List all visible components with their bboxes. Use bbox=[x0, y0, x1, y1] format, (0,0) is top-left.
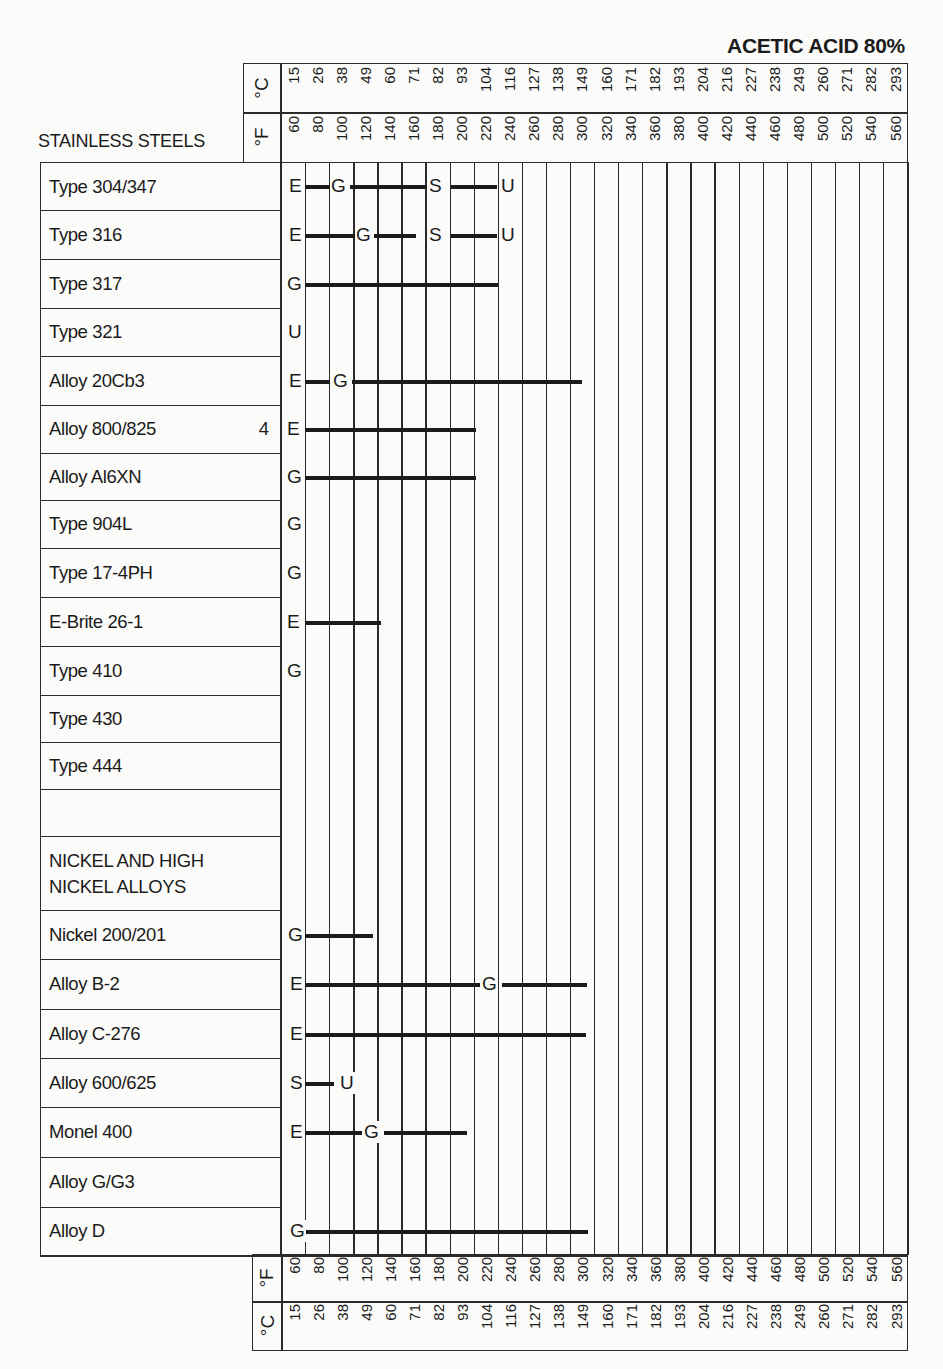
grid-line bbox=[498, 162, 499, 1255]
axis-tick-label: 93 bbox=[451, 1304, 475, 1321]
axis-tick: 238 bbox=[764, 1304, 788, 1329]
rating-letter: G bbox=[289, 1220, 306, 1242]
chart-grid: Type 304/347Type 316Type 317Type 321Allo… bbox=[0, 0, 943, 1369]
grid-line bbox=[618, 162, 619, 1255]
axis-tick: 200 bbox=[451, 1257, 475, 1282]
rating-bar bbox=[305, 1131, 362, 1135]
material-row: Alloy 800/8254 bbox=[40, 405, 281, 454]
material-row: Type 444 bbox=[40, 742, 281, 790]
axis-tick: 71 bbox=[403, 1304, 427, 1321]
axis-tick: 171 bbox=[620, 1304, 644, 1329]
rating-letter: E bbox=[289, 1023, 304, 1045]
axis-tick-label: 440 bbox=[740, 1257, 764, 1282]
rating-bar bbox=[305, 380, 330, 384]
axis-tick-label: 38 bbox=[331, 1304, 355, 1321]
rating-letter: E bbox=[289, 973, 304, 995]
axis-tick-label: 26 bbox=[307, 1304, 331, 1321]
grid-line bbox=[329, 162, 330, 1255]
material-row: Alloy Al6XN bbox=[40, 453, 281, 501]
axis-tick: 300 bbox=[571, 1257, 595, 1282]
material-row: Alloy C-276 bbox=[40, 1009, 281, 1059]
axis-tick: 271 bbox=[836, 1304, 860, 1329]
axis-tick: 120 bbox=[355, 1257, 379, 1282]
material-name: Nickel 200/201 bbox=[49, 924, 166, 946]
grid-line bbox=[859, 162, 860, 1255]
material-name: Type 304/347 bbox=[49, 176, 156, 198]
rating-bar bbox=[305, 283, 498, 287]
axis-tick: 280 bbox=[547, 1257, 571, 1282]
material-row: Nickel 200/201 bbox=[40, 910, 281, 960]
material-row: Alloy G/G3 bbox=[40, 1157, 281, 1208]
axis-tick: 204 bbox=[692, 1304, 716, 1329]
axis-tick-label: 104 bbox=[475, 1304, 499, 1329]
axis-tick: 138 bbox=[547, 1304, 571, 1329]
rating-letter: G bbox=[287, 924, 304, 946]
rating-bar bbox=[305, 983, 480, 987]
material-name: Alloy 800/825 bbox=[49, 418, 156, 440]
axis-tick: 60 bbox=[283, 1257, 307, 1274]
axis-tick-label: 120 bbox=[355, 1257, 379, 1282]
chart-left-border bbox=[280, 162, 282, 1255]
axis-tick: 540 bbox=[860, 1257, 884, 1282]
material-name: E-Brite 26-1 bbox=[49, 611, 143, 633]
grid-line bbox=[642, 162, 643, 1255]
axis-tick: 360 bbox=[644, 1257, 668, 1282]
material-name: Monel 400 bbox=[49, 1121, 132, 1143]
axis-tick-label: 380 bbox=[668, 1257, 692, 1282]
axis-tick-label: 300 bbox=[571, 1257, 595, 1282]
axis-tick-label: 238 bbox=[764, 1304, 788, 1329]
axis-tick-label: 271 bbox=[836, 1304, 860, 1329]
rating-bar bbox=[305, 234, 355, 238]
rating-bar bbox=[384, 1131, 467, 1135]
axis-tick: 80 bbox=[307, 1257, 331, 1274]
rating-letter: G bbox=[286, 562, 303, 584]
axis-tick: 180 bbox=[427, 1257, 451, 1282]
axis-tick-label: 520 bbox=[836, 1257, 860, 1282]
axis-tick: 500 bbox=[812, 1257, 836, 1282]
grid-line bbox=[787, 162, 788, 1255]
rating-bar bbox=[451, 185, 497, 189]
axis-tick-label: 200 bbox=[451, 1257, 475, 1282]
axis-tick-label: 340 bbox=[620, 1257, 644, 1282]
axis-tick-label: 260 bbox=[523, 1257, 547, 1282]
grid-line bbox=[425, 162, 426, 1255]
bottom-axis-unit-f-cell: °F bbox=[252, 1254, 283, 1303]
axis-tick: 480 bbox=[788, 1257, 812, 1282]
material-row: Alloy 600/625 bbox=[40, 1058, 281, 1108]
grid-line bbox=[714, 162, 715, 1255]
axis-tick: 140 bbox=[379, 1257, 403, 1282]
axis-tick: 282 bbox=[860, 1304, 884, 1329]
axis-tick-label: 480 bbox=[788, 1257, 812, 1282]
material-row: E-Brite 26-1 bbox=[40, 597, 281, 647]
rating-letter: G bbox=[330, 175, 347, 197]
axis-tick: 93 bbox=[451, 1304, 475, 1321]
axis-tick: 380 bbox=[668, 1257, 692, 1282]
material-row: Alloy D bbox=[40, 1207, 281, 1256]
rating-letter: G bbox=[355, 224, 372, 246]
material-row: Type 317 bbox=[40, 259, 281, 309]
grid-line bbox=[835, 162, 836, 1255]
axis-tick-label: 560 bbox=[885, 1257, 909, 1282]
material-name: Type 430 bbox=[49, 708, 122, 730]
axis-tick-label: 140 bbox=[379, 1257, 403, 1282]
material-name: Type 321 bbox=[49, 321, 122, 343]
grid-line bbox=[739, 162, 740, 1255]
axis-tick-label: 138 bbox=[547, 1304, 571, 1329]
axis-tick: 49 bbox=[355, 1304, 379, 1321]
material-row: Alloy B-2 bbox=[40, 959, 281, 1010]
rating-bar bbox=[305, 1082, 334, 1086]
rating-letter: E bbox=[289, 1121, 304, 1143]
axis-tick-label: 49 bbox=[355, 1304, 379, 1321]
material-row: Type 410 bbox=[40, 646, 281, 696]
axis-tick: 293 bbox=[885, 1304, 909, 1329]
axis-tick-label: 420 bbox=[716, 1257, 740, 1282]
material-name: Type 904L bbox=[49, 513, 132, 535]
rating-letter: G bbox=[286, 513, 303, 535]
rating-letter: E bbox=[288, 175, 303, 197]
rating-bar bbox=[305, 476, 476, 480]
axis-tick-label: 182 bbox=[644, 1304, 668, 1329]
axis-tick-label: 82 bbox=[427, 1304, 451, 1321]
grid-line bbox=[763, 162, 764, 1255]
material-name: Alloy D bbox=[49, 1220, 105, 1242]
axis-tick: 560 bbox=[885, 1257, 909, 1282]
